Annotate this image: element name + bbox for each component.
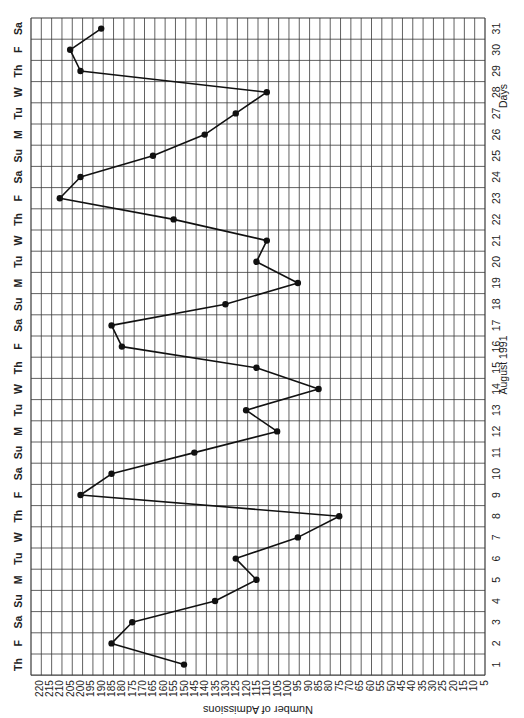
value-tick-label: 200 [75,680,86,697]
weekday-label: Su [12,446,24,459]
value-tick-label: 190 [96,680,107,697]
weekday-label: F [12,343,24,350]
day-tick-label: 13 [490,404,502,416]
weekday-label: Th [12,65,24,78]
weekday-labels: ThFSaSuMTuWThFSaSuMTuWThFSaSuMTuWThFSaSu… [12,22,24,671]
weekday-label: M [12,427,24,436]
value-tick-label: 120 [241,680,252,697]
weekday-label: M [12,278,24,287]
data-point-marker [253,577,259,583]
value-tick-label: 85 [313,680,324,692]
weekday-label: Th [12,361,24,374]
day-tick-label: 1 [490,662,502,668]
data-point-marker [222,301,228,307]
data-point-marker [181,661,187,667]
y-axis-title: Number of Admissions [202,704,313,716]
value-tick-label: 80 [323,680,334,692]
weekday-label: Tu [12,404,24,416]
value-tick-label: 90 [303,680,314,692]
data-point-marker [108,640,114,646]
data-point-marker [108,471,114,477]
value-tick-label: 160 [158,680,169,697]
weekday-label: F [12,46,24,53]
x-axis-title: Days [497,84,509,108]
weekday-label: Su [12,149,24,162]
value-tick-label: 185 [106,680,117,697]
data-point-marker [274,428,280,434]
weekday-label: Sa [12,170,24,183]
day-tick-label: 29 [490,65,502,77]
data-point-marker [170,216,176,222]
value-tick-label: 70 [344,680,355,692]
value-tick-label: 110 [261,680,272,696]
value-tick-label: 15 [458,680,469,692]
value-tick-label: 155 [168,680,179,697]
data-point-marker [295,534,301,540]
data-point-marker [336,513,342,519]
data-point-marker [315,386,321,392]
weekday-label: F [12,194,24,201]
value-tick-label: 145 [189,680,200,697]
data-point-marker [129,619,135,625]
data-point-marker [212,598,218,604]
data-point-marker [264,89,270,95]
day-tick-label: 6 [490,556,502,562]
x-axis-subtitle: August 1991 [497,335,509,394]
weekday-label: F [12,491,24,498]
value-tick-label: 195 [85,680,96,697]
value-tick-label: 35 [417,680,428,692]
data-point-marker [57,195,63,201]
data-point-marker [253,259,259,265]
weekday-label: Tu [12,553,24,565]
data-point-marker [150,153,156,159]
value-tick-label: 45 [396,680,407,692]
day-tick-label: 25 [490,150,502,162]
value-tick-label: 125 [230,680,241,697]
day-tick-label: 8 [490,513,502,519]
value-tick-label: 30 [427,680,438,692]
value-tick-labels: 2202152102052001951901851801751701651601… [34,680,490,697]
value-tick-label: 135 [210,680,221,697]
day-tick-label: 21 [490,235,502,247]
value-tick-label: 75 [334,680,345,692]
weekday-label: Sa [12,319,24,332]
data-point-marker [202,131,208,137]
weekday-label: Sa [12,616,24,629]
value-tick-label: 205 [65,680,76,697]
value-tick-label: 95 [292,680,303,692]
weekday-label: Th [12,510,24,523]
weekday-label: Sa [12,467,24,480]
value-tick-label: 140 [199,680,210,697]
data-point-marker [77,492,83,498]
data-point-marker [264,237,270,243]
value-tick-label: 215 [44,680,55,697]
day-tick-label: 19 [490,277,502,289]
data-point-marker [98,25,104,31]
day-tick-label: 26 [490,129,502,141]
day-tick-label: 23 [490,192,502,204]
day-tick-label: 12 [490,425,502,437]
weekday-label: M [12,130,24,139]
weekday-label: Th [12,213,24,226]
value-tick-label: 100 [282,680,293,697]
day-tick-label: 17 [490,319,502,331]
value-tick-label: 60 [365,680,376,692]
weekday-label: W [12,384,24,394]
day-tick-label: 5 [490,577,502,583]
day-tick-label: 7 [490,534,502,540]
value-tick-label: 165 [147,680,158,697]
weekday-label: F [12,640,24,647]
weekday-label: Su [12,297,24,310]
value-tick-label: 170 [137,680,148,697]
admissions-line-chart: ThFSaSuMTuWThFSaSuMTuWThFSaSuMTuWThFSaSu… [0,0,524,718]
value-tick-label: 105 [272,680,283,697]
value-tick-label: 175 [127,680,138,697]
weekday-label: W [12,236,24,246]
value-tick-label: 210 [54,680,65,697]
day-tick-label: 22 [490,213,502,225]
value-tick-label: 150 [179,680,190,697]
day-tick-label: 10 [490,468,502,480]
value-tick-label: 65 [354,680,365,692]
weekday-label: W [12,87,24,97]
data-point-marker [243,407,249,413]
